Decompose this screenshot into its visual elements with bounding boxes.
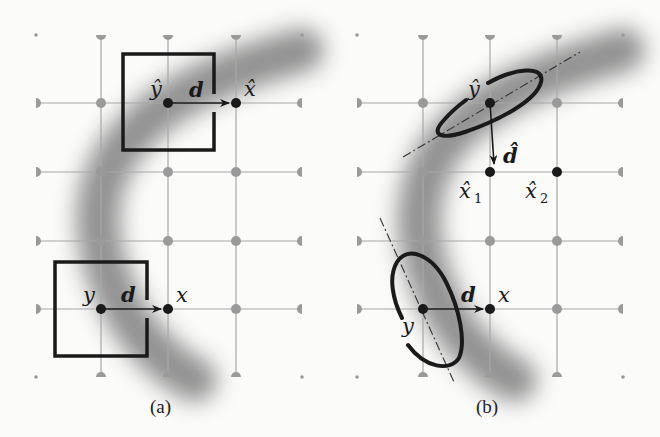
label-x-hat-1-b: x̂ bbox=[459, 179, 471, 203]
point-x-hat-a bbox=[231, 98, 241, 108]
structure-band-b bbox=[419, 50, 623, 380]
label-x-hat-2-b: x̂ bbox=[525, 179, 537, 203]
panel-a: ŷ d x̂ y d x (a) bbox=[34, 33, 304, 418]
label-x-hat-1-sub: 1 bbox=[474, 191, 482, 206]
grid-b bbox=[357, 35, 623, 377]
point-x-a bbox=[163, 304, 173, 314]
label-d-hat-b: d̂ bbox=[503, 142, 518, 168]
label-y-b: y bbox=[401, 314, 415, 338]
point-x-hat-1-b bbox=[485, 167, 495, 177]
label-x-a: x bbox=[176, 283, 188, 307]
point-y-hat-a bbox=[163, 98, 173, 108]
label-d-top-a: d bbox=[189, 77, 204, 102]
point-y-b bbox=[418, 304, 428, 314]
label-x-b: x bbox=[498, 283, 510, 307]
label-y-hat-a: ŷ bbox=[149, 77, 163, 101]
point-x-hat-2-b bbox=[552, 167, 562, 177]
label-x-hat-a: x̂ bbox=[244, 77, 256, 101]
caption-a: (a) bbox=[150, 396, 171, 418]
point-y-hat-b bbox=[485, 98, 495, 108]
label-y-a: y bbox=[82, 283, 96, 307]
point-y-a bbox=[96, 304, 106, 314]
caption-b: (b) bbox=[476, 396, 498, 418]
label-x-hat-2-sub: 2 bbox=[540, 191, 548, 206]
label-d-bottom-a: d bbox=[121, 282, 136, 307]
panel-b: ŷ d̂ x̂ 1 x̂ 2 y d x (b) bbox=[355, 33, 625, 418]
point-x-b bbox=[485, 304, 495, 314]
figure-canvas: ŷ d x̂ y d x (a) bbox=[0, 0, 660, 437]
label-d-b: d bbox=[461, 282, 476, 307]
label-y-hat-b: ŷ bbox=[467, 77, 481, 101]
